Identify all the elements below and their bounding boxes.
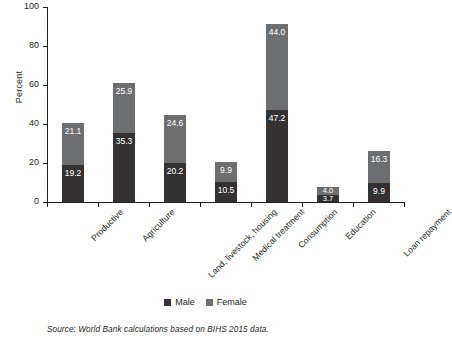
x-axis-line <box>47 202 404 203</box>
bar-segment-female[interactable]: 21.1 <box>62 123 84 164</box>
bar-segment-female[interactable]: 24.6 <box>164 115 186 163</box>
x-axis-category-label: Medical treatment <box>250 207 306 263</box>
bar-value-label-female: 44.0 <box>266 28 288 37</box>
x-axis-category-label: Productive <box>89 207 125 243</box>
bar-value-label-female: 25.9 <box>113 87 135 96</box>
source-note: Source: World Bank calculations based on… <box>47 325 269 334</box>
bar-value-label-male: 3.7 <box>317 195 339 203</box>
y-axis-tick-label: 0 <box>34 196 39 206</box>
bar-segment-female[interactable]: 16.3 <box>368 151 390 183</box>
bar-group[interactable]: 24.620.2 <box>164 115 186 202</box>
bar-value-label-female: 24.6 <box>164 119 186 128</box>
plot-area: 020406080100 21.119.225.935.324.620.29.9… <box>47 8 404 203</box>
bar-segment-female[interactable]: 25.9 <box>113 83 135 134</box>
x-axis-tick <box>200 202 201 207</box>
x-axis-category-label: Loan repayment <box>401 207 452 258</box>
y-axis-tick: 80 <box>43 46 48 47</box>
legend-label: Male <box>175 297 195 307</box>
x-axis-tick <box>98 202 99 207</box>
y-axis-tick-label: 40 <box>29 118 39 128</box>
bar-segment-male[interactable]: 20.2 <box>164 163 186 202</box>
x-axis-category-label: Education <box>343 207 377 241</box>
y-axis-tick-label: 60 <box>29 79 39 89</box>
bar-segment-male[interactable]: 9.9 <box>368 183 390 202</box>
bar-segment-male[interactable]: 10.5 <box>215 182 237 202</box>
male-swatch-icon <box>164 299 171 306</box>
chart-legend: MaleFemale <box>0 297 411 307</box>
bar-value-label-male: 35.3 <box>113 137 135 146</box>
bar-value-label-female: 16.3 <box>368 155 390 164</box>
bar-segment-male[interactable]: 47.2 <box>266 110 288 202</box>
bar-group[interactable]: 9.910.5 <box>215 162 237 202</box>
bar-value-label-male: 20.2 <box>164 167 186 176</box>
bar-group[interactable]: 44.047.2 <box>266 24 288 202</box>
legend-item[interactable]: Male <box>164 297 195 307</box>
x-axis-tick <box>302 202 303 207</box>
y-axis-tick-label: 20 <box>29 157 39 167</box>
x-axis-tick <box>353 202 354 207</box>
female-swatch-icon <box>206 299 213 306</box>
bar-segment-male[interactable]: 19.2 <box>62 165 84 202</box>
bar-group[interactable]: 16.39.9 <box>368 151 390 202</box>
bar-value-label-male: 19.2 <box>62 169 84 178</box>
y-axis-line <box>47 8 48 203</box>
x-axis-tick <box>47 202 48 207</box>
legend-label: Female <box>217 297 247 307</box>
bar-value-label-male: 47.2 <box>266 114 288 123</box>
bar-group[interactable]: 21.119.2 <box>62 123 84 202</box>
x-axis-category-label: Agriculture <box>140 207 176 243</box>
bar-value-label-female: 21.1 <box>62 127 84 136</box>
bar-value-label-male: 9.9 <box>368 187 390 196</box>
bar-group[interactable]: 4.03.7 <box>317 187 339 202</box>
y-axis-tick: 60 <box>43 85 48 86</box>
x-axis-tick <box>404 202 405 207</box>
bar-segment-male[interactable]: 3.7 <box>317 195 339 202</box>
bar-value-label-female: 9.9 <box>215 166 237 175</box>
bar-segment-female[interactable]: 44.0 <box>266 24 288 110</box>
x-axis-tick <box>149 202 150 207</box>
bar-group[interactable]: 25.935.3 <box>113 83 135 202</box>
y-axis-title: Percent <box>14 47 24 127</box>
bar-value-label-male: 10.5 <box>215 186 237 195</box>
y-axis-tick: 100 <box>43 7 48 8</box>
y-axis-tick: 20 <box>43 163 48 164</box>
x-axis-tick <box>251 202 252 207</box>
legend-item[interactable]: Female <box>206 297 247 307</box>
y-axis-tick-label: 100 <box>24 1 39 11</box>
bar-segment-female[interactable]: 9.9 <box>215 162 237 181</box>
bar-segment-male[interactable]: 35.3 <box>113 133 135 202</box>
y-axis-tick-label: 80 <box>29 40 39 50</box>
y-axis-tick: 40 <box>43 124 48 125</box>
